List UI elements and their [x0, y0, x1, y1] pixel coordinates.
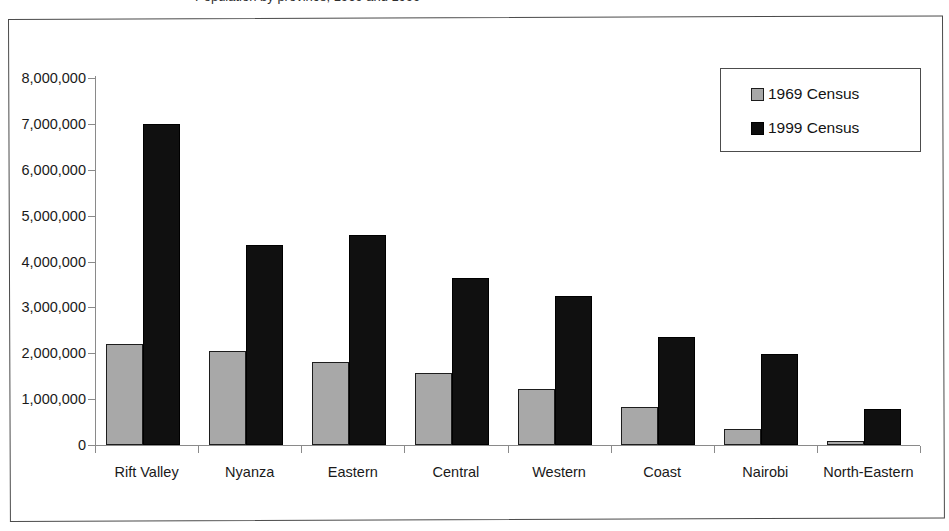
x-axis-tick-mark [817, 446, 818, 453]
bar-1969 [518, 389, 555, 445]
chart-screenshot: Population by province, 1969 and 1999 8,… [0, 0, 949, 531]
y-axis-tick-label: 0 [0, 437, 86, 453]
legend-label-1969: 1969 Census [768, 85, 859, 103]
bar-1969 [621, 407, 658, 445]
x-axis-category-label: Eastern [328, 464, 378, 480]
y-axis-tick-mark [88, 170, 96, 171]
legend-label-1999: 1999 Census [768, 119, 859, 137]
x-axis-tick-mark [920, 446, 921, 453]
bar-1969 [106, 344, 143, 445]
y-axis-tick-mark [88, 307, 96, 308]
x-axis-category-label: Central [433, 464, 480, 480]
y-axis-tick-label: 2,000,000 [0, 345, 86, 361]
bar-1969 [724, 429, 761, 445]
x-axis-category-label: Coast [643, 464, 681, 480]
plot-area: 8,000,0007,000,0006,000,0005,000,0004,00… [0, 0, 949, 531]
legend-entry-1999: 1999 Census [751, 119, 859, 137]
y-axis-tick-mark [88, 216, 96, 217]
x-axis-tick-mark [198, 446, 199, 453]
bar-1999 [349, 235, 386, 445]
x-axis-tick-mark [404, 446, 405, 453]
y-axis-tick-mark [88, 124, 96, 125]
y-axis-tick-label: 6,000,000 [0, 162, 86, 178]
bar-1969 [209, 351, 246, 445]
bar-1969 [827, 441, 864, 445]
bar-1969 [312, 362, 349, 445]
bar-1999 [761, 354, 798, 445]
bar-1999 [452, 278, 489, 445]
bar-1999 [555, 296, 592, 445]
y-axis-tick-mark [88, 353, 96, 354]
y-axis-tick-mark [88, 262, 96, 263]
x-axis-category-label: Western [532, 464, 586, 480]
x-axis-tick-mark [714, 446, 715, 453]
y-axis-tick-label: 8,000,000 [0, 70, 86, 86]
x-axis-category-label: Nairobi [742, 464, 788, 480]
x-axis-tick-mark [95, 446, 96, 453]
bar-1999 [246, 245, 283, 445]
y-axis-tick-label: 1,000,000 [0, 391, 86, 407]
x-axis-category-label: North-Eastern [823, 464, 913, 480]
legend-entry-1969: 1969 Census [751, 85, 859, 103]
y-axis-tick-label: 3,000,000 [0, 299, 86, 315]
x-axis-tick-mark [508, 446, 509, 453]
legend-swatch-icon-1969 [751, 88, 764, 101]
x-axis-tick-mark [301, 446, 302, 453]
bar-1999 [658, 337, 695, 445]
y-axis-tick-label: 4,000,000 [0, 254, 86, 270]
y-axis-tick-mark [88, 78, 96, 79]
y-axis-tick-mark [88, 399, 96, 400]
bar-1969 [415, 373, 452, 445]
x-axis-category-label: Nyanza [225, 464, 274, 480]
y-axis-tick-label: 5,000,000 [0, 208, 86, 224]
x-axis-category-label: Rift Valley [114, 464, 178, 480]
bar-1999 [143, 124, 180, 445]
x-axis-tick-mark [611, 446, 612, 453]
legend-swatch-icon-1999 [751, 122, 764, 135]
chart-legend: 1969 Census 1999 Census [720, 68, 921, 152]
bar-1999 [864, 409, 901, 445]
y-axis-tick-label: 7,000,000 [0, 116, 86, 132]
